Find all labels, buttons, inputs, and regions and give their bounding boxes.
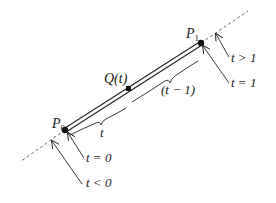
arrow-t-eq-0 xyxy=(68,133,84,158)
point-q xyxy=(126,86,131,91)
dashed-extension-lower xyxy=(20,130,65,162)
arrow-t-eq-1 xyxy=(203,46,229,83)
label-t-eq-1: t = 1 xyxy=(231,75,256,90)
parametric-line-diagram: P1 P0 Q(t) t (t − 1) t > 1 t = 1 t = 0 t… xyxy=(0,0,276,203)
label-t-minus-1-segment: (t − 1) xyxy=(161,82,195,97)
label-t-eq-0: t = 0 xyxy=(86,150,112,165)
dashed-extension-upper xyxy=(201,11,248,43)
label-t-segment: t xyxy=(100,125,104,140)
label-p0: P0 xyxy=(51,116,66,133)
arrow-t-gt-1 xyxy=(216,34,229,57)
label-t-lt-0: t < 0 xyxy=(86,175,112,190)
label-t-gt-1: t > 1 xyxy=(231,50,256,65)
label-q: Q(t) xyxy=(104,71,128,87)
label-p1: P1 xyxy=(185,26,199,43)
